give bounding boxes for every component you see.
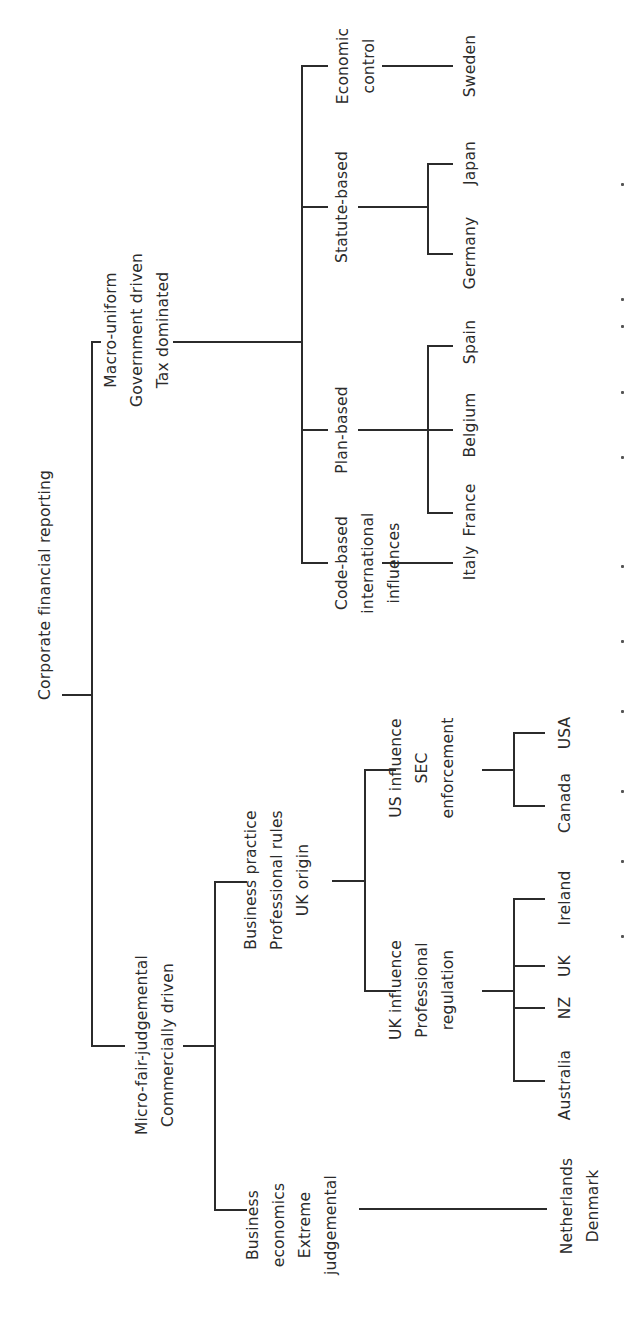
country-belgium: Belgium — [457, 393, 483, 458]
business-economics-line-3: Extreme — [292, 1175, 318, 1275]
statute-based-label: Statute-based — [329, 151, 355, 263]
business-economics-line-4: judgemental — [318, 1175, 344, 1275]
business-practice-label: Business practice Professional rules UK … — [238, 810, 316, 950]
us-influence-line-1: US influence — [383, 717, 409, 818]
france-tick — [427, 512, 453, 514]
country-japan-text: Japan — [457, 141, 483, 185]
uk-influence-line-3: regulation — [435, 940, 461, 1040]
uk-influence-trunk — [513, 898, 515, 1082]
root-label-text: Corporate financial reporting — [32, 470, 58, 700]
business-economics-line-1: Business — [240, 1175, 266, 1275]
plan-connector — [358, 429, 428, 431]
us-influence-line-3: enforcement — [435, 717, 461, 818]
country-spain-text: Spain — [457, 320, 483, 364]
country-sweden-text: Sweden — [457, 35, 483, 97]
country-ireland-text: Ireland — [552, 870, 578, 925]
us-influence-trunk — [513, 732, 515, 807]
economic-control-line-1: Economic — [330, 28, 356, 105]
usa-tick — [513, 732, 545, 734]
statute-based-text: Statute-based — [329, 151, 355, 263]
micro-line-2: Commercially driven — [155, 955, 181, 1135]
spain-tick — [427, 345, 453, 347]
business-practice-trunk — [364, 769, 366, 992]
country-nz: NZ — [552, 997, 578, 1020]
country-uk-text: UK — [552, 955, 578, 977]
uk-tick — [513, 965, 545, 967]
code-based-line-2: international — [355, 512, 381, 613]
business-economics-label: Business economics Extreme judgemental — [240, 1175, 344, 1275]
statute-connector — [358, 206, 428, 208]
root-connector — [62, 694, 93, 696]
country-canada-text: Canada — [552, 773, 578, 833]
country-usa: USA — [552, 717, 578, 750]
country-germany-text: Germany — [457, 217, 483, 290]
country-italy: Italy — [457, 546, 483, 581]
uk-influence-line-2: Professional — [409, 940, 435, 1040]
country-canada: Canada — [552, 773, 578, 833]
us-influence-line-2: SEC — [409, 717, 435, 818]
us-influence-connector — [482, 769, 514, 771]
country-uk: UK — [552, 955, 578, 977]
nz-tick — [513, 1007, 545, 1009]
macro-line-1: Macro-uniform — [98, 253, 124, 407]
micro-line-1: Micro-fair-judgemental — [129, 955, 155, 1135]
plan-based-text: Plan-based — [329, 386, 355, 473]
uk-influence-line-1: UK influence — [383, 940, 409, 1040]
belgium-tick — [427, 429, 453, 431]
micro-connector — [183, 1045, 216, 1047]
country-sweden: Sweden — [457, 35, 483, 97]
code-based-line-1: Code-based — [329, 512, 355, 613]
macro-line-2: Government driven — [124, 253, 150, 407]
plan-tick — [301, 429, 328, 431]
uk-influence-label: UK influence Professional regulation — [383, 940, 461, 1040]
business-practice-connector — [332, 880, 366, 882]
macro-trunk — [301, 66, 303, 564]
statute-trunk — [427, 163, 429, 255]
code-connector — [382, 562, 453, 564]
root-trunk — [91, 342, 93, 1046]
business-economics-line-2: economics — [266, 1175, 292, 1275]
canada-tick — [513, 805, 545, 807]
country-australia-text: Australia — [552, 1050, 578, 1120]
uk-influence-connector — [482, 990, 514, 992]
country-germany: Germany — [457, 217, 483, 290]
macro-line-3: Tax dominated — [150, 253, 176, 407]
country-france-text: France — [457, 484, 483, 537]
classification-tree-diagram: Corporate financial reporting Macro-unif… — [0, 0, 625, 1320]
country-australia: Australia — [552, 1050, 578, 1120]
macro-connector — [173, 341, 303, 343]
country-italy-text: Italy — [457, 546, 483, 581]
country-denmark-text: Denmark — [580, 1158, 606, 1255]
us-influence-label: US influence SEC enforcement — [383, 717, 461, 818]
micro-tick — [91, 1045, 125, 1047]
country-france: France — [457, 484, 483, 537]
ireland-tick — [513, 898, 545, 900]
plan-based-label: Plan-based — [329, 386, 355, 473]
country-usa-text: USA — [552, 717, 578, 750]
economic-control-line-2: control — [356, 28, 382, 105]
country-netherlands-text: Netherlands — [554, 1158, 580, 1255]
australia-tick — [513, 1080, 545, 1082]
business-practice-line-3: UK origin — [290, 810, 316, 950]
country-japan: Japan — [457, 141, 483, 185]
root-label: Corporate financial reporting — [32, 470, 58, 700]
japan-tick — [427, 163, 453, 165]
business-practice-line-2: Professional rules — [264, 810, 290, 950]
business-economics-connector — [359, 1208, 547, 1210]
germany-tick — [427, 253, 453, 255]
code-tick — [301, 562, 328, 564]
economic-control-label: Economic control — [330, 28, 382, 105]
micro-trunk — [214, 881, 216, 1211]
economic-control-connector — [382, 65, 453, 67]
micro-label: Micro-fair-judgemental Commercially driv… — [129, 955, 181, 1135]
macro-label: Macro-uniform Government driven Tax domi… — [98, 253, 176, 407]
country-ireland: Ireland — [552, 870, 578, 925]
country-spain: Spain — [457, 320, 483, 364]
country-belgium-text: Belgium — [457, 393, 483, 458]
economic-control-tick — [301, 65, 328, 67]
country-nz-text: NZ — [552, 997, 578, 1020]
countries-netherlands-denmark: Netherlands Denmark — [554, 1158, 606, 1255]
business-practice-line-1: Business practice — [238, 810, 264, 950]
statute-tick — [301, 206, 328, 208]
